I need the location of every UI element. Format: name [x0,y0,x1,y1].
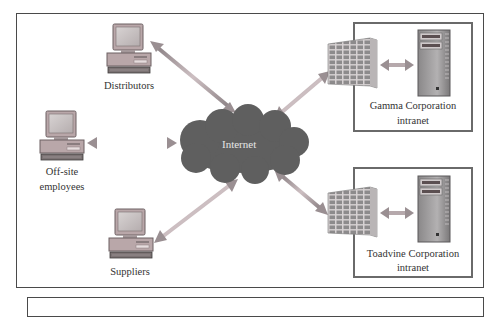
toadvine-label-line2: intranet [355,260,471,275]
arrow-offsite-internet [87,137,177,149]
offsite-computer-icon [40,111,84,160]
toadvine-firewall-icon [328,187,377,237]
arrow-distributors-internet [150,41,236,113]
distributors-label: Distributors [90,78,168,93]
caption-frame [27,297,484,317]
suppliers-computer-icon [109,209,153,258]
arrow-internet-toadvine [274,169,328,215]
gamma-label-line1: Gamma Corporation [355,98,471,113]
suppliers-label: Suppliers [90,264,170,279]
arrow-toadvine-internal [380,207,414,219]
offsite-label-line2: employees [22,179,102,194]
gamma-firewall-icon [328,38,377,88]
distributors-computer-icon [107,24,151,73]
gamma-server-icon [418,30,450,96]
arrow-suppliers-internet [154,179,238,243]
toadvine-server-icon [418,176,450,242]
offsite-label-line1: Off-site [22,164,102,179]
gamma-label-line2: intranet [355,113,471,128]
internet-label: Internet [222,138,256,150]
arrow-gamma-internal [380,59,414,71]
toadvine-label-line1: Toadvine Corporation [355,246,471,261]
arrow-internet-gamma [274,71,330,119]
